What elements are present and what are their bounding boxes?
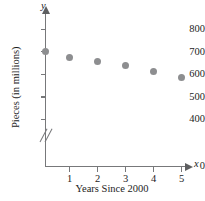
x-tick-4: [153, 166, 154, 172]
data-point-4: [150, 68, 157, 75]
data-point-3: [122, 62, 129, 69]
data-point-1: [66, 54, 73, 61]
y-tick-label-400: 400: [167, 114, 205, 125]
y-tick-label-800: 800: [167, 24, 205, 35]
scatter-plot-figure: y x 800 700 600 500 400 0 1 2 3 4 5 Piec…: [0, 0, 205, 201]
data-point-2: [94, 58, 101, 65]
x-tick-2: [97, 166, 98, 172]
origin-label: 0: [167, 161, 205, 172]
x-tick-5: [181, 166, 182, 172]
x-tick-3: [125, 166, 126, 172]
x-axis-line: [45, 166, 186, 167]
axis-break-icon: [38, 126, 54, 146]
x-axis-title: Years Since 2000: [36, 184, 188, 195]
y-axis-title: Pieces (in millions): [11, 22, 22, 152]
y-tick-label-700: 700: [167, 47, 205, 58]
y-tick-800: [41, 29, 47, 30]
y-tick-label-500: 500: [167, 92, 205, 103]
y-tick-500: [41, 96, 47, 97]
data-point-5: [178, 74, 185, 81]
y-tick-600: [41, 74, 47, 75]
x-tick-label-5: 5: [172, 174, 192, 185]
data-point-0: [42, 48, 49, 55]
y-tick-400: [41, 119, 47, 120]
y-tick-label-600: 600: [167, 69, 205, 80]
x-tick-1: [69, 166, 70, 172]
y-axis-variable-label: y: [41, 1, 46, 12]
